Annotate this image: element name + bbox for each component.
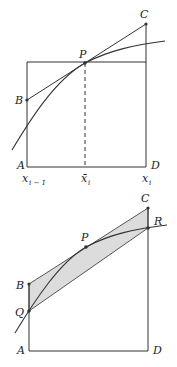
point-b: [27, 282, 30, 285]
label-x-right-sub: i: [149, 179, 151, 187]
point-b: [25, 98, 28, 101]
figure-bottom: C R P B Q A D: [15, 192, 167, 357]
point-c: [146, 206, 149, 209]
point-q: [27, 309, 31, 313]
label-a: A: [16, 344, 25, 357]
label-x-right: x: [142, 172, 149, 185]
label-b: B: [14, 94, 23, 107]
label-c: C: [140, 8, 149, 21]
label-x-bar: x̄: [81, 172, 88, 185]
label-p: P: [80, 231, 89, 244]
label-x-left: x: [22, 172, 29, 185]
label-r: R: [153, 215, 162, 228]
label-c: C: [141, 192, 150, 205]
label-a: A: [16, 159, 25, 172]
diagram-canvas: C P B A D x i − 1 x̄ i x i C R P B Q A D: [0, 0, 177, 367]
label-b: B: [15, 279, 24, 292]
label-p: P: [78, 48, 87, 61]
figure-top: C P B A D x i − 1 x̄ i x i: [12, 8, 165, 187]
point-r: [146, 226, 150, 230]
point-p: [83, 61, 87, 65]
label-d: D: [152, 344, 162, 357]
label-x-bar-sub: i: [88, 179, 90, 187]
label-q: Q: [15, 306, 24, 319]
point-p: [84, 245, 88, 249]
point-c: [144, 22, 147, 25]
label-d: D: [150, 159, 160, 172]
shaded-parallelogram: [29, 208, 148, 311]
label-x-left-sub: i − 1: [29, 179, 46, 187]
